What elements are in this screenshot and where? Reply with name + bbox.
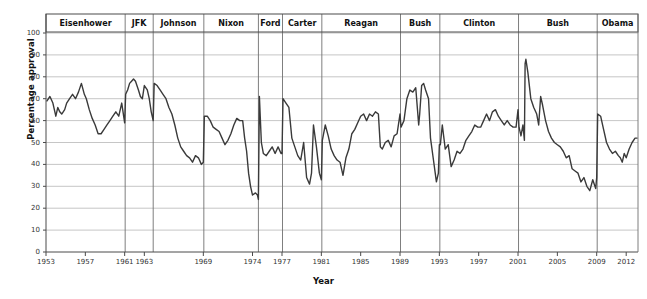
approval-line [47, 59, 637, 199]
president-band-eisenhower-0: Eisenhower [46, 18, 125, 30]
x-tick-label: 1993 [419, 258, 459, 266]
y-tick-label: 50 [14, 139, 40, 147]
president-band-ford-4: Ford [258, 18, 282, 30]
president-band-carter-5: Carter [283, 18, 322, 30]
x-tick-label: 1963 [124, 258, 164, 266]
y-tick-label: 60 [14, 117, 40, 125]
x-tick-label: 2005 [537, 258, 577, 266]
x-tick-label: 1969 [183, 258, 223, 266]
x-tick-label: 1985 [341, 258, 381, 266]
x-tick-label: 1989 [380, 258, 420, 266]
x-tick-label: 2001 [498, 258, 538, 266]
x-tick-label: 2012 [606, 258, 646, 266]
president-band-clinton-8: Clinton [440, 18, 519, 30]
x-tick-label: 1953 [26, 258, 66, 266]
president-band-reagan-6: Reagan [322, 18, 401, 30]
president-band-johnson-2: Johnson [153, 18, 204, 30]
y-tick-label: 40 [14, 160, 40, 168]
president-band-bush-7: Bush [401, 18, 440, 30]
y-tick-label: 100 [14, 29, 40, 37]
x-tick-label: 1981 [301, 258, 341, 266]
y-tick-label: 10 [14, 226, 40, 234]
plot-svg [0, 0, 647, 299]
y-tick-label: 80 [14, 73, 40, 81]
president-band-obama-10: Obama [597, 18, 638, 30]
x-tick-label: 1997 [459, 258, 499, 266]
approval-rating-chart: Percentage approval Year EisenhowerJFKJo… [0, 0, 647, 299]
y-tick-label: 0 [14, 248, 40, 256]
y-tick-label: 90 [14, 51, 40, 59]
president-band-jfk-1: JFK [125, 18, 153, 30]
y-tick-label: 70 [14, 95, 40, 103]
x-tick-label: 1977 [262, 258, 302, 266]
president-band-nixon-3: Nixon [204, 18, 259, 30]
y-tick-label: 30 [14, 182, 40, 190]
y-tick-label: 20 [14, 204, 40, 212]
president-band-bush-9: Bush [519, 18, 598, 30]
x-tick-label: 1957 [65, 258, 105, 266]
